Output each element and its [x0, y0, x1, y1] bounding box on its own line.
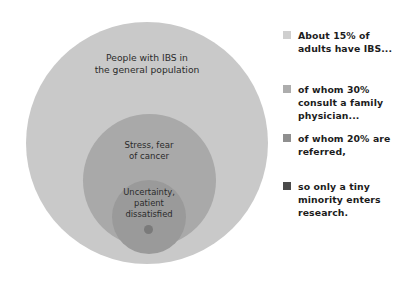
- legend-item-label: About 15% of adults have IBS...: [298, 29, 392, 55]
- legend-item[interactable]: of whom 30% consult a family physician..…: [283, 83, 383, 123]
- circle-inner-label: Uncertainty, patient dissatisfied: [104, 187, 194, 220]
- diagram-canvas: People with IBS in the general populatio…: [0, 0, 405, 286]
- legend-item[interactable]: About 15% of adults have IBS...: [283, 29, 392, 55]
- circle-research-dot[interactable]: [144, 225, 153, 234]
- legend-item-label: of whom 20% are referred,: [298, 132, 390, 158]
- legend-swatch-icon: [283, 31, 291, 39]
- legend-swatch-icon: [283, 134, 291, 142]
- circle-outer-label: People with IBS in the general populatio…: [47, 52, 247, 76]
- legend-swatch-icon: [283, 85, 291, 93]
- legend-item[interactable]: so only a tiny minority enters research.: [283, 180, 381, 220]
- legend-item[interactable]: of whom 20% are referred,: [283, 132, 390, 158]
- legend: About 15% of adults have IBS... of whom …: [283, 24, 405, 224]
- circle-middle-label: Stress, fear of cancer: [99, 140, 199, 163]
- legend-item-label: of whom 30% consult a family physician..…: [298, 83, 383, 123]
- legend-swatch-icon: [283, 182, 291, 190]
- legend-item-label: so only a tiny minority enters research.: [298, 180, 381, 220]
- nested-circles-diagram: People with IBS in the general populatio…: [0, 0, 280, 286]
